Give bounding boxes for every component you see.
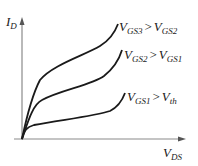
x-axis-arrow-icon [178, 137, 186, 142]
curve-label-vgs3: VGS3>VGS2 [119, 20, 177, 36]
curve-label-vgs1: VGS1>Vth [127, 90, 177, 106]
y-axis-arrow-icon [20, 17, 25, 25]
curve-vgs3 [22, 24, 118, 139]
curve-vgs1 [22, 93, 125, 139]
x-axis-label: VDS [163, 146, 182, 162]
curve-label-vgs2: VGS2>VGS1 [124, 48, 182, 64]
mosfet-iv-diagram: ID VDS VGS3>VGS2 VGS2>VGS1 VGS1>Vth [0, 0, 198, 166]
curve-vgs2 [22, 50, 122, 139]
y-axis-label: ID [6, 15, 17, 31]
